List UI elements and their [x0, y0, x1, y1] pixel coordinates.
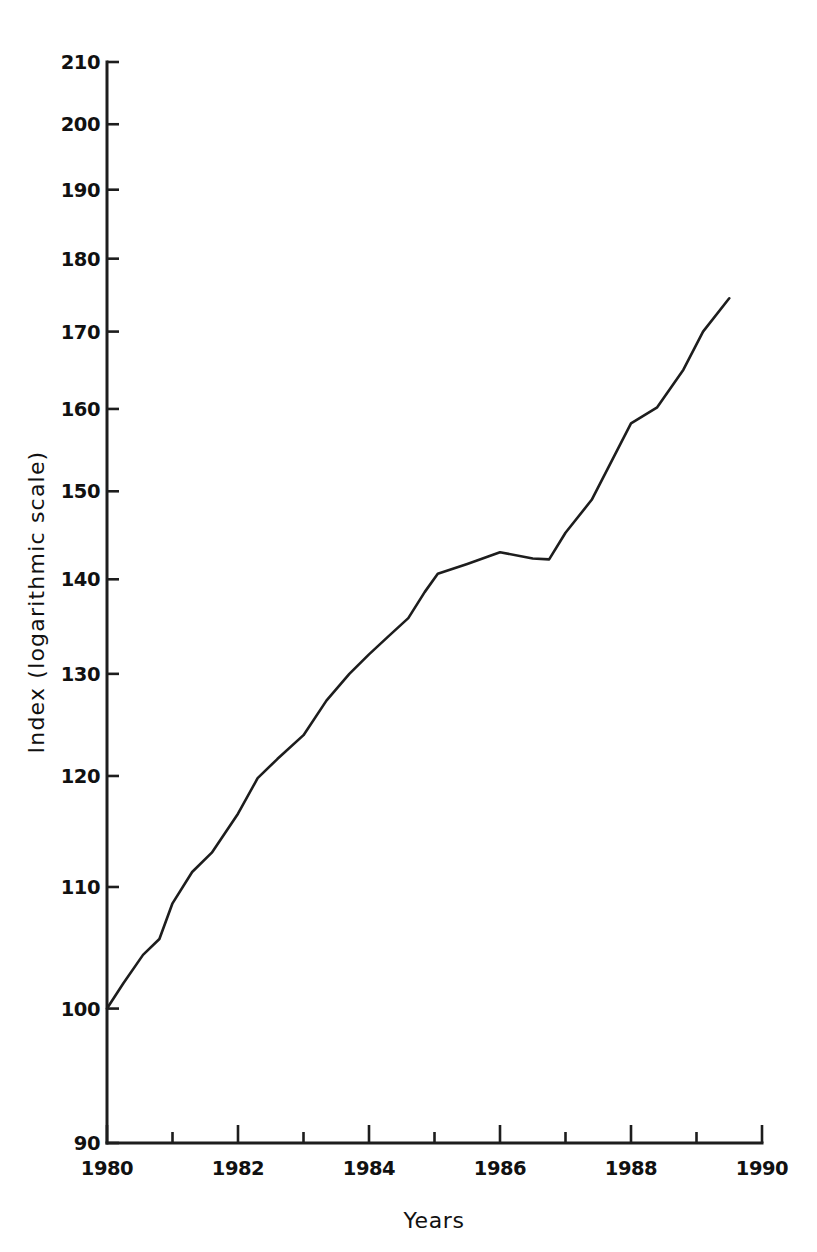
- x-tick-label-1990: 1990: [736, 1157, 788, 1180]
- x-tick-label-1984: 1984: [343, 1157, 395, 1180]
- y-tick-label-90: 90: [74, 1132, 100, 1155]
- chart-background: [0, 0, 817, 1252]
- x-axis-title: Years: [402, 1208, 464, 1233]
- x-tick-label-1986: 1986: [474, 1157, 526, 1180]
- y-tick-label-110: 110: [61, 876, 100, 899]
- y-axis-title: Index (logarithmic scale): [24, 451, 49, 754]
- y-tick-label-180: 180: [61, 248, 100, 271]
- x-tick-label-1982: 1982: [212, 1157, 264, 1180]
- y-tick-label-130: 130: [61, 663, 100, 686]
- y-tick-label-210: 210: [61, 51, 100, 74]
- y-tick-label-200: 200: [61, 113, 100, 136]
- y-tick-label-120: 120: [61, 765, 100, 788]
- chart-figure: 90100110120130140150160170180190200210 1…: [0, 0, 817, 1252]
- x-tick-label-1988: 1988: [605, 1157, 657, 1180]
- y-tick-label-170: 170: [61, 321, 100, 344]
- y-tick-label-140: 140: [61, 568, 100, 591]
- y-tick-label-190: 190: [61, 179, 100, 202]
- x-tick-label-1980: 1980: [81, 1157, 133, 1180]
- y-tick-label-150: 150: [61, 480, 100, 503]
- y-tick-label-100: 100: [61, 998, 100, 1021]
- y-tick-label-160: 160: [61, 398, 100, 421]
